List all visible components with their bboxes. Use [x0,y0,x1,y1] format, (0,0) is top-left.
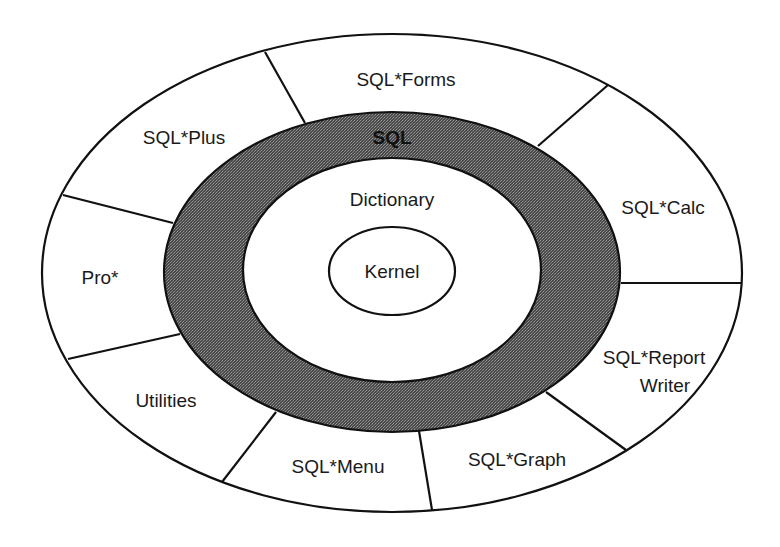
segment-sql-menu-label: SQL*Menu [292,456,385,477]
segment-sql-report-label-line2: Writer [640,375,691,396]
divider-forms-calc [538,85,608,146]
segment-utilities-label: Utilities [135,390,196,411]
segment-sql-graph-label: SQL*Graph [468,449,566,470]
segment-pro-label: Pro* [82,267,120,288]
segment-sql-report-label-line1: SQL*Report [603,347,706,368]
segment-sql-plus-label: SQL*Plus [143,127,225,148]
segment-sql-calc-label: SQL*Calc [621,197,704,218]
dictionary-label: Dictionary [350,189,435,210]
divider-utilities-pro [68,334,180,359]
divider-plus-forms [265,52,305,123]
segment-sql-forms-label: SQL*Forms [356,69,455,90]
kernel-label: Kernel [365,261,420,282]
divider-pro-plus [63,195,173,223]
divider-menu-utilities [222,412,276,482]
divider-graph-menu [419,431,432,510]
divider-report-graph [546,392,626,450]
sql-label: SQL [372,127,411,148]
oracle-architecture-diagram: Kernel Dictionary SQL SQL*Forms SQL*Calc… [0,0,780,547]
